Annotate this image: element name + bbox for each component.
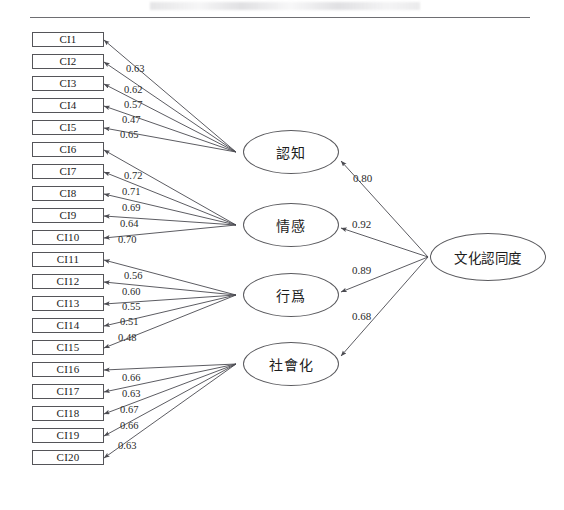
indicator-box[interactable]: CI13 bbox=[32, 296, 104, 311]
indicator-box[interactable]: CI11 bbox=[32, 252, 104, 267]
loading-label: 0.60 bbox=[122, 286, 140, 297]
indicator-box[interactable]: CI20 bbox=[32, 450, 104, 465]
indicator-box[interactable]: CI4 bbox=[32, 98, 104, 113]
loading-label: 0.64 bbox=[120, 218, 138, 229]
indicator-box[interactable]: CI17 bbox=[32, 384, 104, 399]
path-coefficient-label: 0.92 bbox=[352, 218, 371, 230]
loading-label: 0.66 bbox=[120, 420, 138, 431]
loading-label: 0.69 bbox=[122, 202, 140, 213]
indicator-box[interactable]: CI19 bbox=[32, 428, 104, 443]
indicator-box[interactable]: CI10 bbox=[32, 230, 104, 245]
loading-label: 0.56 bbox=[124, 270, 142, 281]
path-coefficient-label: 0.80 bbox=[353, 172, 372, 184]
loading-label: 0.47 bbox=[122, 114, 140, 125]
latent-factor-affect[interactable]: 情感 bbox=[243, 203, 339, 247]
loading-label: 0.65 bbox=[120, 129, 138, 140]
figure-canvas: CI1 CI2 CI3 CI4 CI5 CI6 CI7 CI8 CI9 CI10… bbox=[0, 0, 564, 510]
indicator-box[interactable]: CI14 bbox=[32, 318, 104, 333]
loading-label: 0.66 bbox=[122, 372, 140, 383]
indicator-box[interactable]: CI1 bbox=[32, 32, 104, 47]
loading-label: 0.71 bbox=[122, 186, 140, 197]
indicator-box[interactable]: CI12 bbox=[32, 274, 104, 289]
indicator-box[interactable]: CI15 bbox=[32, 340, 104, 355]
latent-factor-cognition[interactable]: 認知 bbox=[243, 130, 339, 174]
loading-label: 0.67 bbox=[120, 404, 138, 415]
latent-factor-socialization[interactable]: 社會化 bbox=[243, 342, 339, 386]
loading-label: 0.51 bbox=[120, 316, 138, 327]
loading-label: 0.70 bbox=[118, 234, 136, 245]
indicator-box[interactable]: CI6 bbox=[32, 142, 104, 157]
loading-label: 0.57 bbox=[124, 99, 142, 110]
indicator-box[interactable]: CI18 bbox=[32, 406, 104, 421]
loading-label: 0.63 bbox=[126, 63, 144, 74]
path-coefficient-label: 0.68 bbox=[352, 310, 371, 322]
loading-label: 0.48 bbox=[118, 332, 136, 343]
path-coefficient-label: 0.89 bbox=[352, 264, 371, 276]
indicator-box[interactable]: CI9 bbox=[32, 208, 104, 223]
indicator-box[interactable]: CI2 bbox=[32, 54, 104, 69]
indicator-box[interactable]: CI7 bbox=[32, 164, 104, 179]
loading-label: 0.72 bbox=[124, 170, 142, 181]
loading-label: 0.55 bbox=[122, 301, 140, 312]
loading-label: 0.63 bbox=[118, 440, 136, 451]
loading-label: 0.63 bbox=[122, 388, 140, 399]
latent-factor-cultural-identity[interactable]: 文化認同度 bbox=[430, 233, 546, 281]
indicator-box[interactable]: CI5 bbox=[32, 120, 104, 135]
latent-factor-behavior[interactable]: 行爲 bbox=[243, 273, 339, 317]
loading-label: 0.62 bbox=[124, 84, 142, 95]
indicator-box[interactable]: CI16 bbox=[32, 362, 104, 377]
indicator-box[interactable]: CI8 bbox=[32, 186, 104, 201]
indicator-box[interactable]: CI3 bbox=[32, 76, 104, 91]
